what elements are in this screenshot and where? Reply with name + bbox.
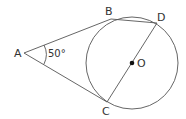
- tangent-ac: [24, 53, 107, 102]
- label-d: D: [157, 11, 165, 24]
- tangent-ab: [24, 19, 111, 53]
- geometry-diagram: A B C D O 50°: [0, 0, 186, 119]
- label-b: B: [105, 5, 113, 18]
- label-a: A: [14, 47, 22, 60]
- center-point-o: [130, 61, 135, 66]
- angle-arc-a: [44, 45, 46, 64]
- angle-label: 50°: [48, 48, 66, 59]
- label-o: O: [137, 57, 146, 70]
- label-c: C: [102, 105, 110, 118]
